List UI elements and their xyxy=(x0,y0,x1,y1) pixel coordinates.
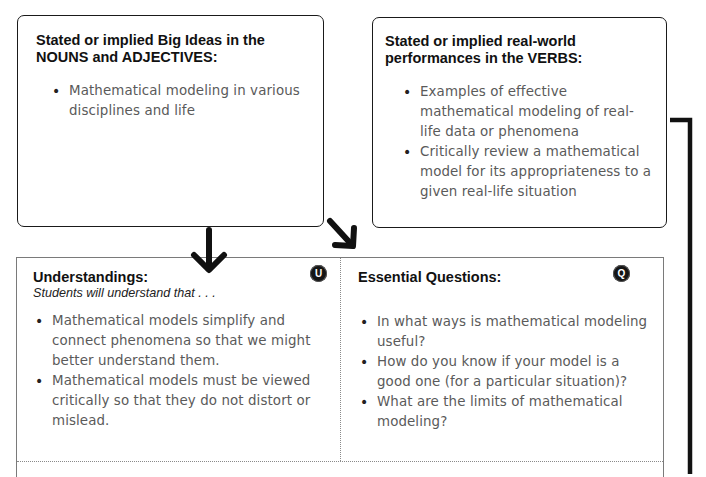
stage1-grid: Understandings: Students will understand… xyxy=(16,257,664,477)
list-item: Critically review a mathematical model f… xyxy=(401,142,654,202)
performances-title: Stated or implied real-world performance… xyxy=(385,33,654,67)
list-item: Examples of effective mathematical model… xyxy=(401,82,654,142)
understandings-title: Understandings: xyxy=(33,269,328,286)
understandings-cell: Understandings: Students will understand… xyxy=(17,258,340,431)
understandings-list: Mathematical models simplify and connect… xyxy=(33,311,328,431)
performances-box: Stated or implied real-world performance… xyxy=(372,17,667,228)
big-ideas-box: Stated or implied Big Ideas in the NOUNS… xyxy=(17,15,324,227)
essential-questions-list: In what ways is mathematical modeling us… xyxy=(358,312,652,432)
list-item: Mathematical models simplify and connect… xyxy=(33,311,328,371)
performances-list: Examples of effective mathematical model… xyxy=(401,82,654,202)
list-item: Mathematical models must be viewed criti… xyxy=(33,371,328,431)
understandings-subtitle: Students will understand that . . . xyxy=(33,286,328,301)
question-badge-icon: Q xyxy=(613,265,630,282)
row-divider xyxy=(17,461,663,462)
big-ideas-list: Mathematical modeling in various discipl… xyxy=(50,81,305,121)
list-item: In what ways is mathematical modeling us… xyxy=(358,312,652,352)
essential-questions-cell: Essential Questions: Q In what ways is m… xyxy=(341,258,664,432)
understanding-badge-icon: U xyxy=(310,265,327,282)
list-item: Mathematical modeling in various discipl… xyxy=(50,81,305,121)
big-ideas-title: Stated or implied Big Ideas in the NOUNS… xyxy=(36,32,305,66)
list-item: How do you know if your model is a good … xyxy=(358,352,652,392)
list-item: What are the limits of mathematical mode… xyxy=(358,392,652,432)
bracket-line-icon xyxy=(670,120,690,474)
diagonal-arrow-icon xyxy=(330,221,354,246)
essential-questions-title: Essential Questions: xyxy=(358,269,652,286)
